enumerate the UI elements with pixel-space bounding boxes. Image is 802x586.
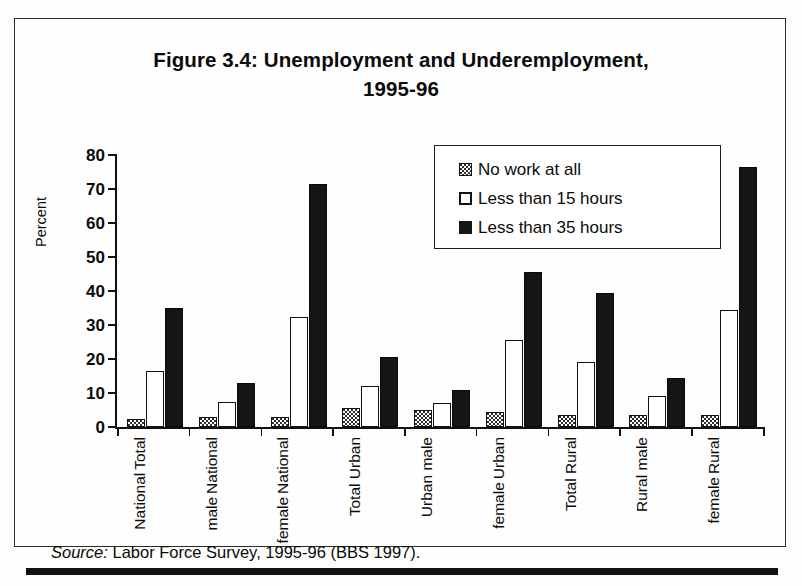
x-axis-tick: [404, 427, 406, 436]
bar: [218, 402, 236, 428]
bar: [452, 390, 470, 427]
bar: [361, 386, 379, 427]
x-axis-category-line: Urban: [490, 437, 507, 479]
x-axis-category-label: Nationalfemale: [239, 437, 311, 533]
x-axis-category-line: National: [203, 437, 220, 494]
y-axis-tick-label: 40: [65, 283, 105, 300]
x-axis-category-line: Rural male: [633, 437, 650, 512]
legend-item: Less than 35 hours: [459, 213, 720, 242]
legend-swatch-less-than-35-hours: [459, 221, 472, 234]
bar-group: [261, 155, 333, 427]
bar: [414, 410, 432, 427]
x-axis-category-label: Ruralfemale: [669, 437, 741, 533]
y-axis-tick: [108, 290, 117, 292]
x-axis-tick: [332, 427, 334, 436]
x-axis-category-line: male: [203, 497, 220, 531]
bar: [629, 415, 647, 427]
y-axis-tick-label: 80: [65, 147, 105, 164]
bar: [290, 317, 308, 428]
y-axis-tick: [108, 188, 117, 190]
bar: [577, 362, 595, 427]
x-axis-category-label: Total Rural: [526, 437, 598, 533]
legend-label: No work at all: [478, 160, 581, 180]
legend-swatch-less-than-15-hours: [459, 192, 472, 205]
x-axis-category-line: female: [490, 482, 507, 529]
x-axis-category-line: Total Urban: [346, 437, 363, 516]
y-axis-tick: [108, 324, 117, 326]
x-axis-category-labels: TotalNationalNationalmaleNationalfemaleT…: [117, 437, 777, 537]
bar: [720, 310, 738, 427]
x-axis-category-label: TotalNational: [95, 437, 167, 533]
bar-group: [117, 155, 189, 427]
bar: [146, 371, 164, 427]
x-axis-tick: [691, 427, 693, 436]
x-axis-category-line: female: [705, 477, 722, 524]
legend-label: Less than 35 hours: [478, 218, 623, 238]
x-axis-category-label: Total Urban: [310, 437, 382, 533]
bar: [701, 415, 719, 427]
x-axis-category-label: Urban male: [382, 437, 454, 533]
bar: [127, 419, 145, 428]
bottom-rule: [26, 568, 778, 575]
bar: [342, 408, 360, 427]
y-axis-tick: [108, 392, 117, 394]
bar: [237, 383, 255, 427]
chart-legend: No work at all Less than 15 hours Less t…: [434, 145, 721, 249]
bar-group: [332, 155, 404, 427]
y-axis-tick-label: 30: [65, 317, 105, 334]
chart-title-line-1: Figure 3.4: Unemployment and Underemploy…: [153, 48, 648, 71]
bar: [199, 417, 217, 427]
bar: [667, 378, 685, 427]
y-axis-title: Percent: [33, 197, 49, 247]
legend-label: Less than 15 hours: [478, 189, 623, 209]
y-axis-tick: [108, 222, 117, 224]
chart-title-line-2: 1995-96: [15, 74, 787, 103]
bar: [309, 184, 327, 427]
x-axis-category-line: Total Rural: [562, 437, 579, 511]
bar: [486, 412, 504, 427]
x-axis-category-line: National: [274, 437, 291, 494]
y-axis-tick-label: 70: [65, 181, 105, 198]
bar: [524, 272, 542, 427]
bar: [433, 403, 451, 427]
bar: [558, 415, 576, 427]
y-axis-tick: [108, 154, 117, 156]
x-axis-category-line: female: [274, 497, 291, 544]
x-axis-tick: [189, 427, 191, 436]
bar: [380, 357, 398, 427]
x-axis-category-line: Urban male: [418, 437, 435, 517]
x-axis-category-line: Rural: [705, 437, 722, 474]
y-axis-tick-label: 20: [65, 351, 105, 368]
y-axis-tick-label: 60: [65, 215, 105, 232]
bar: [505, 340, 523, 427]
bar: [271, 417, 289, 427]
y-axis-tick: [108, 256, 117, 258]
x-axis-tick: [619, 427, 621, 436]
chart-title: Figure 3.4: Unemployment and Underemploy…: [15, 45, 787, 103]
x-axis-line: [115, 427, 763, 429]
source-note: Source: Labor Force Survey, 1995-96 (BBS…: [51, 543, 420, 562]
x-axis-tick: [763, 427, 765, 436]
x-axis-tick: [261, 427, 263, 436]
x-axis-tick: [476, 427, 478, 436]
source-label: Source:: [51, 543, 108, 561]
source-text: Labor Force Survey, 1995-96 (BBS 1997).: [108, 543, 420, 561]
y-axis-tick: [108, 358, 117, 360]
bar-group: [189, 155, 261, 427]
x-axis-category-label: Rural male: [597, 437, 669, 533]
x-axis-tick: [117, 427, 119, 436]
bar: [648, 396, 666, 427]
x-axis-category-line: National: [131, 473, 148, 530]
x-axis-category-line: Total: [131, 437, 148, 470]
x-axis-category-label: Urbanfemale: [454, 437, 526, 533]
legend-item: No work at all: [459, 155, 720, 184]
y-axis-tick-label: 10: [65, 385, 105, 402]
x-axis-category-label: Nationalmale: [167, 437, 239, 533]
x-axis-tick: [548, 427, 550, 436]
figure-frame: Figure 3.4: Unemployment and Underemploy…: [14, 18, 786, 547]
bar: [739, 167, 757, 427]
y-axis-tick-label: 50: [65, 249, 105, 266]
bar: [596, 293, 614, 427]
bar: [165, 308, 183, 427]
y-axis-tick-label: 0: [65, 419, 105, 436]
